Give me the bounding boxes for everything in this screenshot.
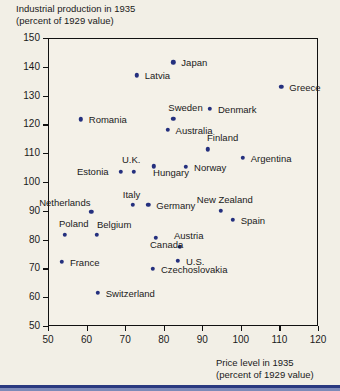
data-point-label: Finland xyxy=(207,133,238,143)
data-point-label: Greece xyxy=(289,83,320,93)
data-point-label: Poland xyxy=(59,219,89,229)
y-tick-mark xyxy=(43,67,48,68)
y-tick-label: 140 xyxy=(14,61,40,72)
data-point-label: Denmark xyxy=(218,105,257,115)
x-tick-label: 110 xyxy=(264,334,294,345)
y-tick-mark xyxy=(43,96,48,97)
x-axis-caption: Price level in 1935 (percent of 1929 val… xyxy=(216,357,314,380)
y-tick-label: 70 xyxy=(14,262,40,273)
x-tick-label: 100 xyxy=(226,334,256,345)
data-point-label: Hungary xyxy=(153,168,189,178)
x-tick-label: 60 xyxy=(72,334,102,345)
data-point-label: Canada xyxy=(150,240,183,250)
x-tick-label: 80 xyxy=(149,334,179,345)
y-tick-label: 110 xyxy=(14,147,40,158)
x-tick-mark xyxy=(48,326,49,331)
x-tick-mark xyxy=(87,326,88,331)
y-tick-label: 100 xyxy=(14,176,40,187)
data-point-label: Czechoslovakia xyxy=(161,265,228,275)
y-tick-label: 120 xyxy=(14,118,40,129)
x-tick-label: 50 xyxy=(33,334,63,345)
y-tick-mark xyxy=(43,297,48,298)
x-tick-mark xyxy=(125,326,126,331)
y-tick-mark xyxy=(43,153,48,154)
x-tick-mark xyxy=(318,326,319,331)
y-tick-mark xyxy=(43,182,48,183)
data-point-label: Japan xyxy=(181,58,207,68)
scatter-chart-figure: Industrial production in 1935 (percent o… xyxy=(0,0,340,391)
data-point-label: Italy xyxy=(123,190,140,200)
chart-title: Industrial production in 1935 (percent o… xyxy=(16,3,135,26)
data-point-label: France xyxy=(70,258,100,268)
x-tick-label: 90 xyxy=(187,334,217,345)
data-point-label: Sweden xyxy=(168,103,202,113)
data-point-label: New Zealand xyxy=(197,195,253,205)
y-tick-mark xyxy=(43,240,48,241)
x-tick-mark xyxy=(279,326,280,331)
x-tick-mark xyxy=(164,326,165,331)
y-tick-label: 60 xyxy=(14,291,40,302)
y-tick-label: 150 xyxy=(14,32,40,43)
data-point-label: Germany xyxy=(156,201,195,211)
data-point-label: Netherlands xyxy=(39,198,90,208)
y-tick-label: 90 xyxy=(14,205,40,216)
data-point-label: Switzerland xyxy=(106,289,155,299)
x-tick-label: 120 xyxy=(303,334,333,345)
data-point-label: U.K. xyxy=(122,155,140,165)
y-tick-mark xyxy=(43,38,48,39)
x-tick-label: 70 xyxy=(110,334,140,345)
data-point-label: Belgium xyxy=(97,220,131,230)
data-point-label: Romania xyxy=(89,115,127,125)
y-tick-mark xyxy=(43,268,48,269)
data-point-label: Latvia xyxy=(145,71,170,81)
data-point-label: Spain xyxy=(241,216,265,226)
x-tick-mark xyxy=(202,326,203,331)
data-point-label: Estonia xyxy=(77,167,109,177)
plot-area xyxy=(48,38,318,326)
data-point-label: Argentina xyxy=(251,154,292,164)
data-point-label: Norway xyxy=(194,163,226,173)
y-tick-label: 50 xyxy=(14,320,40,331)
x-tick-mark xyxy=(241,326,242,331)
y-tick-mark xyxy=(43,124,48,125)
y-tick-label: 130 xyxy=(14,90,40,101)
y-tick-label: 80 xyxy=(14,234,40,245)
y-tick-mark xyxy=(43,211,48,212)
